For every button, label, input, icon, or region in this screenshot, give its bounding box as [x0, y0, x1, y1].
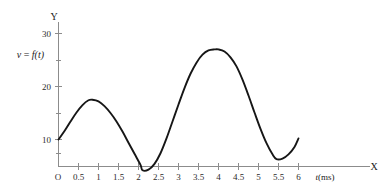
- y-tick-label-20: 20: [42, 82, 52, 92]
- y-axis-name: Y: [50, 11, 57, 22]
- function-curve: [59, 49, 299, 171]
- x-tick-label-4.5: 4.5: [233, 172, 245, 182]
- y-tick-labels: 30 20 10: [42, 29, 52, 145]
- x-tick-label-3: 3: [176, 172, 181, 182]
- x-tick-label-0.5: 0.5: [73, 172, 85, 182]
- x-tick-label-6: 6: [296, 172, 301, 182]
- x-axis-name: X: [370, 161, 378, 172]
- x-tick-label-5: 5: [256, 172, 261, 182]
- x-tick-label-2: 2: [136, 172, 141, 182]
- y-tick-label-10: 10: [42, 135, 52, 145]
- y-tick-label-30: 30: [42, 29, 52, 39]
- x-tick-label-1.5: 1.5: [113, 172, 125, 182]
- plot-svg: Y X O 30 20 10 0.5 1 1.5 2 2.5 3 3.5 4 4…: [0, 0, 390, 187]
- x-tick-label-5.5: 5.5: [273, 172, 285, 182]
- x-tick-label-3.5: 3.5: [193, 172, 205, 182]
- x-tick-label-1: 1: [96, 172, 101, 182]
- x-tick-label-4: 4: [216, 172, 221, 182]
- x-unit-label: t(ms): [315, 172, 334, 182]
- function-label-function: f(t): [32, 49, 45, 61]
- x-tick-label-2.5: 2.5: [153, 172, 165, 182]
- graph-figure: Y X O 30 20 10 0.5 1 1.5 2 2.5 3 3.5 4 4…: [0, 0, 390, 187]
- x-unit-suffix: (ms): [318, 172, 335, 182]
- origin-label: O: [55, 172, 62, 182]
- function-label: v = f(t): [17, 49, 45, 61]
- function-label-equals: =: [21, 49, 32, 60]
- x-tick-labels: 0.5 1 1.5 2 2.5 3 3.5 4 4.5 5 5.5 6: [73, 172, 301, 182]
